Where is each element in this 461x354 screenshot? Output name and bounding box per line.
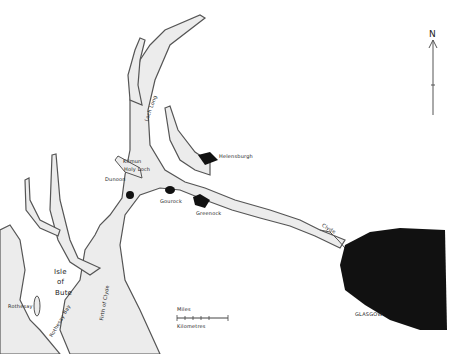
label-gourock: Gourock [160, 198, 182, 204]
north-label: N [429, 29, 436, 39]
label-helensburgh: Helensburgh [219, 153, 253, 159]
label-glasgow: GLASGOW [355, 311, 383, 317]
loch-fad [34, 296, 40, 316]
north-arrow [429, 40, 437, 115]
label-kilmun: Kilmun [123, 158, 141, 164]
scale-km-label: Kilometres [177, 323, 206, 329]
map-canvas [0, 0, 461, 354]
label-rothesay: Rothesay [8, 303, 33, 309]
gare-loch-water [165, 106, 210, 175]
label-of: of [57, 278, 64, 286]
dunoon-urban [126, 191, 134, 199]
gourock-urban [165, 186, 175, 194]
label-dunoon: Dunoon [105, 176, 126, 182]
label-isle: Isle [54, 268, 67, 276]
label-bute: Bute [55, 289, 72, 297]
label-holy-loch: Holy Loch [124, 166, 150, 172]
scale-bar [177, 315, 228, 321]
label-greenock: Greenock [196, 210, 221, 216]
scale-miles-label: Miles [177, 306, 191, 312]
